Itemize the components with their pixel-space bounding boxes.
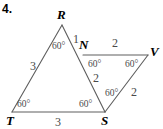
side-label-RN: 1 <box>73 33 79 45</box>
side-label-NV: 2 <box>112 37 118 49</box>
angle-label-T: 60° <box>17 100 30 110</box>
N: N <box>79 38 88 51</box>
side-label-RT: 3 <box>30 60 36 72</box>
angle-label-S-left: 60° <box>79 100 92 110</box>
V: V <box>150 45 159 58</box>
angle-label-N-right: 60° <box>88 60 101 70</box>
angle-label-R: 60° <box>52 42 65 52</box>
side-label-SV: 2 <box>131 86 137 98</box>
T: T <box>6 114 14 127</box>
angle-label-S-top: 60° <box>105 89 118 99</box>
angle-label-V: 60° <box>125 60 138 70</box>
geometry-diagram-canvas <box>0 0 163 129</box>
R: R <box>57 8 66 21</box>
geometry-problem-figure: 4. RTSNV 133222 60°60°60°60°60°60° <box>0 0 163 129</box>
side-label-NS: 2 <box>93 72 99 84</box>
side-label-TS: 3 <box>55 116 61 128</box>
S: S <box>101 114 108 127</box>
